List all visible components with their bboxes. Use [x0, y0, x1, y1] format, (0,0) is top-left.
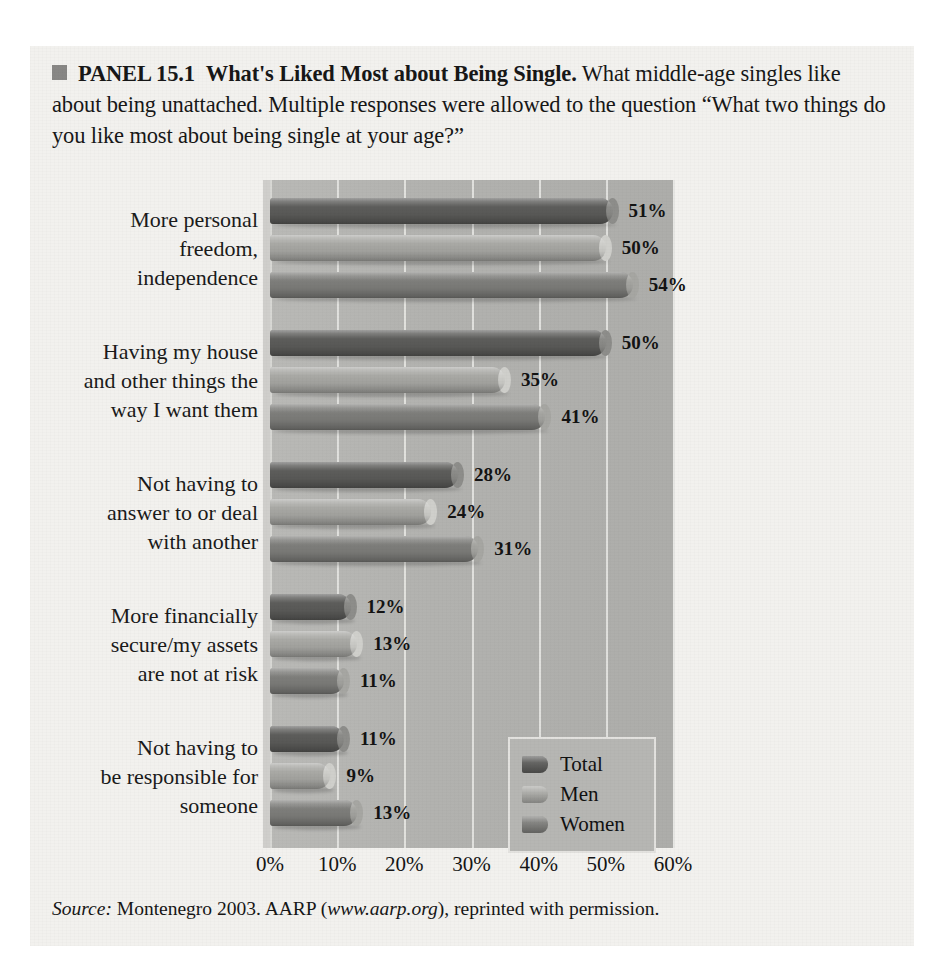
bar-row: 24% — [270, 499, 673, 525]
category-label-line: independence — [30, 263, 258, 292]
bar-women-1 — [270, 404, 545, 430]
source-prefix: Source: — [52, 898, 112, 919]
category-label-line: More financially — [30, 601, 258, 630]
bar-gloss — [270, 272, 633, 298]
bar-women-3 — [270, 668, 344, 694]
legend-item-women[interactable]: Women — [522, 809, 642, 839]
category-label-line: Not having to — [30, 733, 258, 762]
legend-swatch-gloss — [522, 816, 548, 833]
bar-women-2 — [270, 536, 478, 562]
bar-row: 51% — [270, 198, 673, 224]
legend-label: Women — [560, 814, 625, 835]
x-tick-label-0pct: 0% — [256, 852, 284, 877]
panel-title: What's Liked Most about Being Single. — [206, 61, 577, 86]
bar-gloss — [270, 668, 344, 694]
square-bullet-icon — [52, 65, 67, 80]
category-label-line: with another — [30, 527, 258, 556]
legend-label: Total — [560, 754, 603, 775]
bar-gloss — [270, 800, 357, 826]
category-label-line: way I want them — [30, 395, 258, 424]
bar-men-3 — [270, 631, 357, 657]
bar-men-0 — [270, 235, 606, 261]
bar-row: 50% — [270, 330, 673, 356]
bar-row: 12% — [270, 594, 673, 620]
value-label: 50% — [622, 332, 660, 354]
source-url: www.aarp.org — [327, 898, 438, 919]
category-label-line: someone — [30, 791, 258, 820]
value-label: 31% — [494, 538, 532, 560]
bar-total-1 — [270, 330, 606, 356]
panel-figure: PANEL 15.1What's Liked Most about Being … — [30, 46, 914, 946]
bar-row: 54% — [270, 272, 673, 298]
category-label-line: Not having to — [30, 469, 258, 498]
value-label: 54% — [649, 274, 687, 296]
bar-row: 31% — [270, 536, 673, 562]
value-label: 50% — [622, 237, 660, 259]
bar-row: 28% — [270, 462, 673, 488]
value-label: 9% — [346, 765, 375, 787]
panel-caption: PANEL 15.1What's Liked Most about Being … — [52, 58, 892, 151]
bar-gloss — [270, 404, 545, 430]
category-label-1: Having my houseand other things theway I… — [30, 337, 258, 424]
bar-gloss — [270, 763, 330, 789]
value-label: 13% — [373, 633, 411, 655]
x-tick-label-40pct: 40% — [519, 852, 558, 877]
bar-row: 41% — [270, 404, 673, 430]
bar-women-0 — [270, 272, 633, 298]
category-axis: More personalfreedom,independenceHaving … — [30, 180, 258, 848]
bar-gloss — [270, 631, 357, 657]
legend-swatch-total-icon — [522, 756, 548, 773]
bar-men-2 — [270, 499, 431, 525]
bar-gloss — [270, 235, 606, 261]
x-tick-label-50pct: 50% — [587, 852, 626, 877]
value-label: 12% — [367, 596, 405, 618]
panel-label: PANEL 15.1 — [78, 61, 195, 86]
bar-row: 35% — [270, 367, 673, 393]
value-label: 13% — [373, 802, 411, 824]
legend-item-total[interactable]: Total — [522, 749, 642, 779]
bar-men-4 — [270, 763, 330, 789]
category-label-line: freedom, — [30, 234, 258, 263]
bar-gloss — [270, 462, 458, 488]
bar-gloss — [270, 536, 478, 562]
value-label: 11% — [360, 728, 397, 750]
category-label-4: Not having tobe responsible forsomeone — [30, 733, 258, 820]
bar-gloss — [270, 330, 606, 356]
category-label-2: Not having toanswer to or dealwith anoth… — [30, 469, 258, 556]
legend-label: Men — [560, 784, 599, 805]
bar-total-4 — [270, 726, 344, 752]
x-axis: 0%10%20%30%40%50%60% — [270, 852, 673, 886]
bar-men-1 — [270, 367, 505, 393]
category-label-line: and other things the — [30, 366, 258, 395]
bar-row: 50% — [270, 235, 673, 261]
source-text: Montenegro 2003. AARP ( — [112, 898, 327, 919]
value-label: 24% — [447, 501, 485, 523]
category-label-line: answer to or deal — [30, 498, 258, 527]
bar-total-3 — [270, 594, 351, 620]
bar-women-4 — [270, 800, 357, 826]
legend-swatch-men-icon — [522, 786, 548, 803]
value-label: 35% — [521, 369, 559, 391]
bar-gloss — [270, 594, 351, 620]
legend-swatch-gloss — [522, 786, 548, 803]
category-label-line: are not at risk — [30, 659, 258, 688]
category-label-line: Having my house — [30, 337, 258, 366]
bar-gloss — [270, 367, 505, 393]
x-tick-label-10pct: 10% — [318, 852, 357, 877]
value-label: 51% — [629, 200, 667, 222]
bar-gloss — [270, 726, 344, 752]
category-label-3: More financiallysecure/my assetsare not … — [30, 601, 258, 688]
chart-legend: TotalMenWomen — [508, 737, 656, 853]
bar-gloss — [270, 198, 613, 224]
x-tick-label-60pct: 60% — [654, 852, 693, 877]
category-label-line: More personal — [30, 205, 258, 234]
source-note: Source: Montenegro 2003. AARP (www.aarp.… — [52, 898, 659, 920]
bar-total-0 — [270, 198, 613, 224]
legend-item-men[interactable]: Men — [522, 779, 642, 809]
category-label-0: More personalfreedom,independence — [30, 205, 258, 292]
value-label: 41% — [561, 406, 599, 428]
bar-gloss — [270, 499, 431, 525]
value-label: 11% — [360, 670, 397, 692]
source-suffix: ), reprinted with permission. — [438, 898, 660, 919]
bar-row: 13% — [270, 631, 673, 657]
